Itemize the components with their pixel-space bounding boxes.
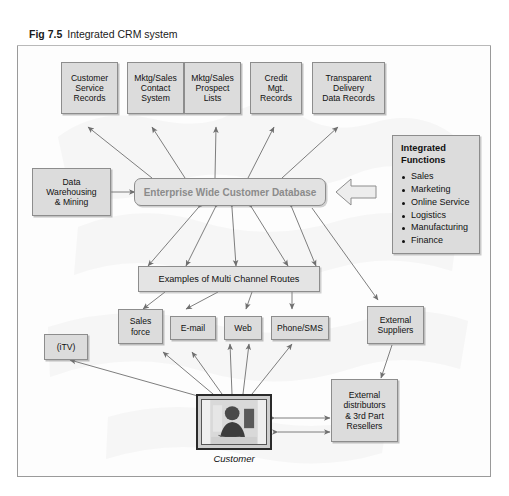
node-email: E-mail (170, 316, 216, 340)
node-external-suppliers: ExternalSuppliers (367, 306, 424, 344)
customer-label: Customer (196, 453, 272, 464)
node-label: (iTV) (57, 342, 76, 352)
node-itv: (iTV) (44, 334, 88, 360)
node-label: Web (234, 323, 252, 333)
customer-image-frame (196, 394, 272, 450)
figure-number: Fig 7.5 (29, 28, 62, 40)
integrated-functions-arrow-icon (334, 176, 378, 208)
function-item-manufacturing: Manufacturing (401, 221, 471, 234)
figure-title-bar: Fig 7.5 Integrated CRM system (17, 22, 491, 46)
node-credit-mgt-records: CreditMgt.Records (250, 62, 302, 114)
panel-integrated-functions: IntegratedFunctions Sales Marketing Onli… (392, 135, 480, 254)
customer-image (196, 394, 272, 450)
node-label: ExternalSuppliers (378, 315, 414, 335)
node-sales-force: Salesforce (118, 309, 163, 344)
node-label: CustomerServiceRecords (71, 73, 108, 103)
node-phone-sms: Phone/SMS (271, 316, 329, 340)
function-item-marketing: Marketing (401, 183, 471, 196)
node-label: DataWarehousing& Mining (46, 177, 96, 207)
node-web: Web (224, 316, 262, 340)
customer-illustration (201, 399, 267, 445)
node-label: Mktg/SalesProspectLists (191, 73, 234, 103)
node-customer-service-records: CustomerServiceRecords (61, 62, 118, 114)
node-label: Examples of Multi Channel Routes (159, 274, 300, 284)
node-enterprise-wide-customer-database: Enterprise Wide Customer Database (134, 178, 326, 206)
node-label: Salesforce (130, 316, 152, 336)
node-external-distributors: Externaldistributors& 3rd PartResellers (331, 379, 398, 442)
integrated-functions-list: Sales Marketing Online Service Logistics… (401, 170, 471, 247)
node-label: TransparentDeliveryData Records (322, 73, 375, 103)
node-examples-multi-channel-routes: Examples of Multi Channel Routes (138, 266, 320, 292)
node-data-warehousing-mining: DataWarehousing& Mining (32, 168, 111, 216)
node-label: CreditMgt.Records (260, 73, 292, 103)
node-label: Externaldistributors& 3rd PartResellers (343, 390, 385, 431)
figure-root: Fig 7.5 Integrated CRM system CustomerSe… (0, 0, 509, 496)
node-transparent-delivery-data-records: TransparentDeliveryData Records (312, 62, 385, 114)
function-item-sales: Sales (401, 170, 471, 183)
function-item-finance: Finance (401, 234, 471, 247)
node-mktg-sales-prospect-lists: Mktg/SalesProspectLists (184, 62, 241, 114)
figure-caption: Integrated CRM system (67, 28, 177, 40)
function-item-logistics: Logistics (401, 209, 471, 222)
node-mktg-sales-contact-system: Mktg/SalesContactSystem (127, 62, 184, 114)
node-label: Phone/SMS (277, 323, 323, 333)
customer-person-icon (202, 400, 266, 444)
node-label: Enterprise Wide Customer Database (144, 187, 317, 198)
node-label: Mktg/SalesContactSystem (134, 73, 177, 103)
function-item-online-service: Online Service (401, 196, 471, 209)
node-label: E-mail (181, 323, 205, 333)
integrated-functions-title: IntegratedFunctions (401, 143, 471, 166)
